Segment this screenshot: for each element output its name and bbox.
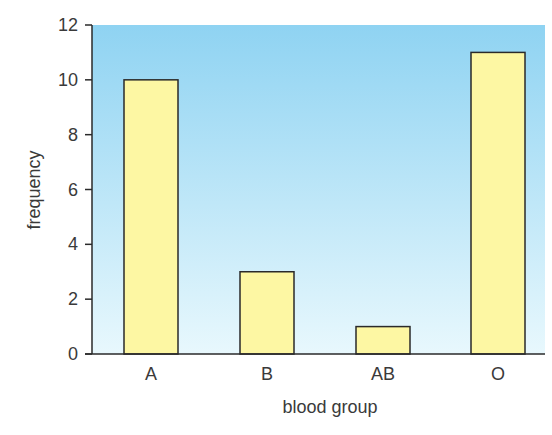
x-tick-label: B: [261, 364, 273, 384]
bar-chart: 024681012 ABABO blood group frequency: [0, 0, 552, 435]
y-tick-label: 10: [58, 70, 78, 90]
bar-a: [124, 80, 178, 354]
y-axis-title: frequency: [24, 150, 44, 229]
y-tick-label: 12: [58, 15, 78, 35]
x-tick-label: AB: [371, 364, 395, 384]
bar-ab: [356, 327, 410, 354]
x-tick-label: A: [145, 364, 157, 384]
y-tick-label: 8: [68, 125, 78, 145]
y-tick-label: 0: [68, 344, 78, 364]
y-tick-label: 2: [68, 289, 78, 309]
y-tick-label: 4: [68, 234, 78, 254]
x-tick-label: O: [491, 364, 505, 384]
x-tick-labels: ABABO: [145, 364, 505, 384]
y-tick-label: 6: [68, 180, 78, 200]
bar-o: [471, 52, 525, 354]
x-axis-title: blood group: [282, 397, 377, 417]
bar-b: [240, 272, 294, 354]
y-ticks: 024681012: [58, 15, 92, 364]
